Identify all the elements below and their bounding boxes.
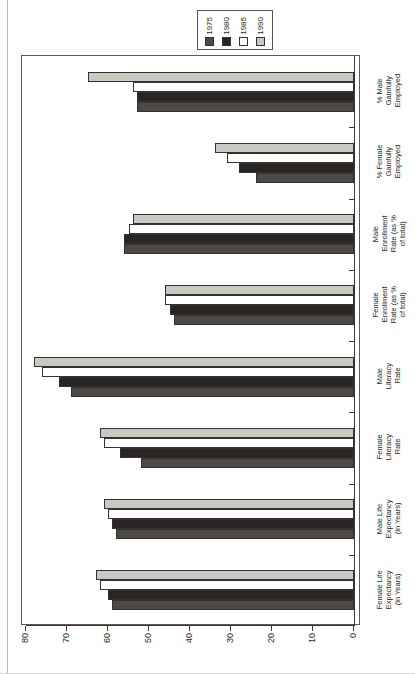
bar-1980-1 <box>239 163 354 173</box>
value-tick-label: 10 <box>307 633 317 643</box>
legend-item-1990: 1990 <box>256 13 265 46</box>
bar-row <box>22 315 361 325</box>
bar-1980-4 <box>59 377 354 387</box>
bar-1980-6 <box>112 519 354 529</box>
category-label-line: Rate <box>393 434 402 460</box>
bar-1990-0 <box>88 72 355 82</box>
bar-1990-5 <box>100 428 354 438</box>
bar-row <box>22 285 361 295</box>
bar-1975-2 <box>124 244 354 254</box>
bar-1985-5 <box>104 438 354 448</box>
value-tick-mark <box>25 626 26 631</box>
value-axis-ticks: 80706050403020100 <box>21 626 360 666</box>
bar-group <box>22 555 361 626</box>
legend-label-1980: 1980 <box>222 17 231 35</box>
bar-row <box>22 519 361 529</box>
bar-1975-0 <box>137 102 354 112</box>
category-label-line: Expectancy <box>384 570 393 609</box>
legend-swatch-1980 <box>222 37 231 46</box>
bar-group <box>22 270 361 341</box>
category-label-line: of total) <box>398 215 407 252</box>
category-label-line: Literacy <box>384 363 393 389</box>
value-tick-label: 70 <box>61 633 71 643</box>
value-tick-label: 50 <box>143 633 153 643</box>
legend-item-1980: 1980 <box>222 13 231 46</box>
value-tick-label: 30 <box>225 633 235 643</box>
category-label-line: Female <box>371 286 380 323</box>
bar-1990-4 <box>34 357 354 367</box>
bar-row <box>22 234 361 244</box>
category-label-line: Gainfully <box>384 74 393 107</box>
chart-plot-area <box>21 55 360 625</box>
bar-1985-1 <box>227 153 354 163</box>
bar-1975-5 <box>141 458 354 468</box>
bar-row <box>22 499 361 509</box>
bar-row <box>22 590 361 600</box>
legend-label-1985: 1985 <box>239 17 248 35</box>
bar-row <box>22 82 361 92</box>
category-label-line: Male <box>371 215 380 252</box>
category-label-line: Male <box>375 363 384 389</box>
bar-row <box>22 244 361 254</box>
bar-group <box>22 56 361 127</box>
bar-row <box>22 295 361 305</box>
bar-1985-4 <box>42 367 354 377</box>
value-tick-label: 80 <box>20 633 30 643</box>
category-label-line: Female Life <box>375 570 384 609</box>
bar-1990-7 <box>96 570 354 580</box>
category-label: % MaleGainfullyEmployed <box>362 55 415 126</box>
value-axis-line <box>354 56 355 626</box>
value-tick-label: 20 <box>266 633 276 643</box>
category-label-line: % Female <box>375 145 384 179</box>
bar-1975-3 <box>174 315 354 325</box>
bar-1980-5 <box>120 448 354 458</box>
bar-1990-2 <box>133 214 354 224</box>
bar-1975-7 <box>112 600 354 610</box>
bar-1980-0 <box>137 92 354 102</box>
value-tick-mark <box>189 626 190 631</box>
bar-1975-6 <box>116 529 354 539</box>
bar-row <box>22 600 361 610</box>
legend-label-1975: 1975 <box>205 17 214 35</box>
category-label: FemaleLiteracyRate <box>362 411 415 482</box>
bar-1985-6 <box>108 509 354 519</box>
legend-swatch-1975 <box>205 37 214 46</box>
value-tick-mark <box>312 626 313 631</box>
bar-groups-container <box>22 56 361 626</box>
bar-row <box>22 92 361 102</box>
value-tick-label: 40 <box>184 633 194 643</box>
category-label-line: of total) <box>398 286 407 323</box>
bar-1985-3 <box>165 295 354 305</box>
bar-row <box>22 143 361 153</box>
bar-row <box>22 367 361 377</box>
bar-1985-0 <box>133 82 354 92</box>
bar-row <box>22 387 361 397</box>
category-label-line: Employed <box>393 145 402 179</box>
category-label: % FemaleGainfullyEmployed <box>362 126 415 197</box>
bar-1975-1 <box>256 173 354 183</box>
bar-row <box>22 570 361 580</box>
category-label-line: Female <box>375 434 384 460</box>
bar-1990-3 <box>165 285 354 295</box>
bar-row <box>22 458 361 468</box>
chart-legend: 1975198019851990 <box>197 10 273 50</box>
legend-item-1975: 1975 <box>205 13 214 46</box>
value-tick-mark <box>66 626 67 631</box>
bar-1975-4 <box>71 387 354 397</box>
bar-1990-1 <box>215 143 354 153</box>
category-label-line: Rate <box>393 363 402 389</box>
category-label-line: Male Life <box>375 499 384 538</box>
bar-group <box>22 341 361 412</box>
value-tick-mark <box>107 626 108 631</box>
category-label: MaleLiteracyRate <box>362 340 415 411</box>
page-scan-edge <box>7 0 8 674</box>
bar-row <box>22 153 361 163</box>
bar-row <box>22 72 361 82</box>
category-label-line: Rate (as % <box>389 286 398 323</box>
value-tick-mark <box>230 626 231 631</box>
bar-row <box>22 305 361 315</box>
value-tick-mark <box>353 626 354 631</box>
bar-row <box>22 509 361 519</box>
category-label-line: Literacy <box>384 434 393 460</box>
bar-1980-3 <box>170 305 355 315</box>
